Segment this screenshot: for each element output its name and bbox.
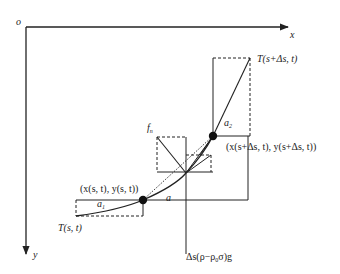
tension-start-label: T(s, t): [58, 223, 82, 233]
y-axis-label: y: [33, 250, 37, 260]
cable-element-diagram: [0, 0, 340, 274]
angle-2-label: a2: [224, 118, 232, 129]
point-start-label: (x(s, t), y(s, t)): [80, 184, 138, 194]
node-start: [139, 196, 147, 204]
small-tangent-box: [186, 136, 213, 173]
normal-force-label: fn: [147, 123, 153, 134]
frame-lines: [143, 136, 248, 254]
point-end-label: (x(s+Δs, t), y(s+Δs, t)): [226, 142, 316, 152]
origin-label: o: [16, 17, 21, 27]
tension-end-label: T(s+Δs, t): [257, 54, 297, 64]
node-end: [209, 132, 217, 140]
chord-dotted: [143, 136, 213, 200]
angle-label: a: [166, 193, 171, 203]
gravity-label: Δs(ρ−ρ0σ)g: [186, 252, 232, 263]
x-axis-label: x: [290, 30, 294, 40]
angle-1-label: a1: [97, 199, 105, 210]
normal-force-vector: [157, 137, 186, 173]
normal-force-box: [157, 137, 186, 173]
tension-start-box: [76, 200, 143, 216]
